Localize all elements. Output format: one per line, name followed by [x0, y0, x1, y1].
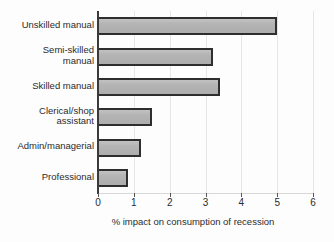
bar[interactable]: [98, 48, 213, 66]
bar-band: [98, 78, 313, 96]
gridline: [134, 11, 135, 193]
x-axis-tick-label: 4: [229, 197, 253, 208]
bar[interactable]: [98, 78, 220, 96]
x-axis-tick-label: 1: [122, 197, 146, 208]
bar-band: [98, 139, 313, 157]
x-axis-tick-label: 3: [194, 197, 218, 208]
gridline: [241, 11, 242, 193]
x-axis-tick-label: 2: [158, 197, 182, 208]
y-axis-line: [97, 11, 99, 194]
category-label: Semi-skilled manual: [0, 45, 94, 66]
category-label: Skilled manual: [0, 81, 94, 92]
plot-area: [98, 11, 313, 193]
bar-band: [98, 169, 313, 187]
bar[interactable]: [98, 108, 152, 126]
gridline: [313, 11, 314, 193]
gridline: [170, 11, 171, 193]
bar-chart: % impact on consumption of recession Uns…: [0, 0, 334, 242]
bar[interactable]: [98, 17, 277, 35]
bar-band: [98, 17, 313, 35]
x-axis-tick-label: 5: [265, 197, 289, 208]
category-label: Unskilled manual: [0, 20, 94, 31]
category-label: Admin/managerial: [0, 141, 94, 152]
category-label: Professional: [0, 172, 94, 183]
x-axis-tick-label: 6: [301, 197, 325, 208]
bar-band: [98, 108, 313, 126]
gridline: [277, 11, 278, 193]
category-label: Clerical/shop assistant: [0, 106, 94, 127]
x-axis-title: % impact on consumption of recession: [0, 216, 334, 227]
gridline: [206, 11, 207, 193]
x-axis-tick-label: 0: [86, 197, 110, 208]
bar-band: [98, 48, 313, 66]
bar[interactable]: [98, 139, 141, 157]
bar[interactable]: [98, 169, 128, 187]
